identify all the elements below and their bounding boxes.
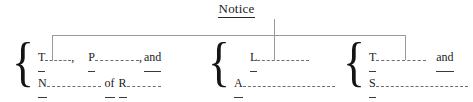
fill-in-blank[interactable] [47, 74, 101, 87]
outline-row: A [234, 70, 335, 96]
fill-in-blank[interactable] [257, 48, 309, 61]
notice-outline-diagram: Notice { T,P,and NofR { L A { Tand S [0, 0, 473, 102]
prompt-letter: S [369, 70, 376, 98]
brace-glyph-middle: { [208, 39, 230, 93]
fill-in-blank[interactable] [376, 74, 468, 87]
fill-in-blank[interactable] [243, 74, 335, 87]
connector-stem-vertical [274, 19, 275, 36]
prompt-letter: L [250, 44, 257, 72]
prompt-letter: T [369, 44, 376, 72]
prompt-letter: T [38, 44, 45, 72]
punctuation: , [139, 44, 142, 71]
fill-in-blank[interactable] [45, 48, 71, 61]
fill-in-blank[interactable] [376, 48, 426, 61]
brace-glyph-right: { [343, 39, 365, 93]
prompt-letter: P [88, 44, 95, 72]
prompt-letter: N [38, 70, 47, 98]
underlined-word: of [105, 70, 115, 98]
brace-glyph-left: { [12, 39, 34, 93]
brace-group-right: { Tand S [343, 42, 468, 96]
fill-in-blank[interactable] [95, 48, 139, 61]
punctuation: , [71, 44, 74, 71]
outline-row: L [234, 44, 335, 70]
underlined-word: and [436, 44, 453, 72]
outline-row: T,P,and [38, 44, 161, 70]
brace-rows-right: Tand S [369, 42, 468, 96]
outline-row: Tand [369, 44, 468, 70]
outline-row: NofR [38, 70, 161, 96]
brace-group-left: { T,P,and NofR [12, 42, 161, 96]
diagram-title: Notice [0, 1, 473, 16]
outline-row: S [369, 70, 468, 96]
underlined-word: R [119, 70, 127, 98]
brace-rows-middle: L A [234, 42, 335, 96]
brace-rows-left: T,P,and NofR [38, 42, 161, 96]
fill-in-blank[interactable] [127, 74, 161, 87]
diagram-title-text: Notice [218, 1, 256, 18]
brace-group-middle: { L A [208, 42, 335, 96]
prompt-letter: A [234, 70, 243, 98]
underlined-word: and [144, 44, 161, 72]
